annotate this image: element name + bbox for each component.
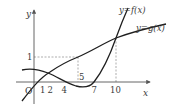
curve-f-label: y=f(x): [118, 5, 146, 15]
x-tick-1: 1: [40, 85, 45, 95]
x-tick-2: 2: [48, 85, 53, 95]
function-graph: y x O 1 2 4 5 7 10 1 y=f(x) y=g(x): [0, 0, 182, 105]
y-tick-1: 1: [27, 52, 32, 62]
curve-g-label: y=g(x): [135, 23, 165, 33]
x-tick-7: 7: [92, 85, 97, 95]
y-axis-label: y: [25, 9, 32, 19]
x-tick-10: 10: [110, 85, 121, 95]
x-axis-label: x: [143, 88, 148, 98]
curve-f: [22, 8, 128, 87]
origin-label: O: [25, 86, 32, 96]
x-tick-5: 5: [79, 72, 84, 82]
x-tick-4: 4: [62, 85, 67, 95]
